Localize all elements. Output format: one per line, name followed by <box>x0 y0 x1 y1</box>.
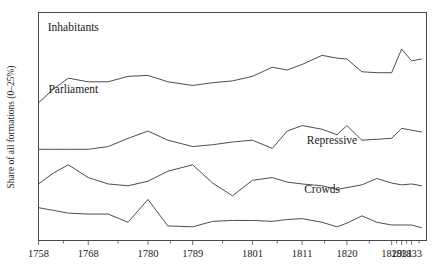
series-label-inhabitants: Inhabitants <box>48 21 100 33</box>
x-tick-label: 1820 <box>336 248 357 259</box>
x-tick-label: 1811 <box>292 248 313 259</box>
series-label-parliament: Parliament <box>48 83 99 95</box>
x-tick-label: 1758 <box>28 248 49 259</box>
x-tick-label: 1780 <box>137 248 158 259</box>
plot-background <box>0 0 439 277</box>
y-axis-label: Share of all formations (0–25%) <box>6 66 17 189</box>
series-label-crowds: Crowds <box>304 183 340 195</box>
x-tick-label: 1801 <box>242 248 263 259</box>
x-tick-label: 1789 <box>182 248 203 259</box>
line-chart: 1758176817801789180118111820182918311833… <box>0 0 439 277</box>
chart-page: 1758176817801789180118111820182918311833… <box>0 0 439 277</box>
x-tick-label: 1833 <box>401 248 422 259</box>
series-label-repressive: Repressive <box>307 134 357 147</box>
x-tick-label: 1768 <box>78 248 99 259</box>
